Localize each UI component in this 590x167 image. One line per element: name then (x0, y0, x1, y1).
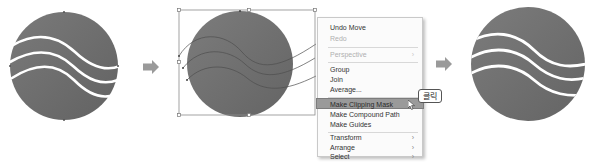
menu-item-average[interactable]: Average... (318, 84, 422, 95)
menu-separator (328, 62, 418, 63)
right-arrow-icon (436, 57, 452, 71)
chevron-right-icon: › (412, 49, 414, 60)
menu-item-make-guides[interactable]: Make Guides (318, 119, 422, 130)
selected-circle-graphic (170, 0, 320, 130)
context-menu: Undo Move Redo Perspective› Group Join A… (317, 17, 423, 157)
menu-separator (328, 47, 418, 48)
menu-item-redo: Redo (318, 33, 422, 44)
menu-item-perspective: Perspective› (318, 49, 422, 60)
right-arrow-icon (143, 60, 159, 74)
step-before-artwork (0, 0, 130, 140)
circle-with-waves-graphic (0, 0, 130, 140)
clipped-circle-graphic (468, 0, 590, 130)
menu-item-select[interactable]: Select› (318, 152, 422, 161)
click-annotation-label: 클릭 (418, 89, 442, 103)
step-selected-artwork (170, 0, 320, 130)
menu-item-undo-move[interactable]: Undo Move (318, 22, 422, 33)
step-after-artwork (468, 0, 590, 130)
menu-item-make-clipping-mask[interactable]: Make Clipping Mask (316, 98, 424, 109)
chevron-right-icon: › (412, 152, 414, 161)
